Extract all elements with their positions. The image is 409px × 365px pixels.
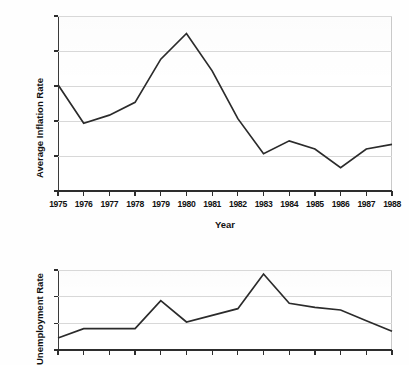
inflation-x-axis-title: Year [215,219,235,230]
y-tick-mark [54,323,58,325]
unemployment-plot-area [58,270,392,350]
gridline [58,121,392,122]
x-tick-mark [391,350,392,355]
x-tick-mark [109,191,110,196]
unemployment-y-axis-title: Unemployment Rate [34,273,45,365]
x-tick-mark [237,350,238,355]
x-tick-mark [134,350,135,355]
x-tick-label: 1982 [229,199,247,209]
x-tick-mark [83,350,84,355]
x-tick-mark [57,191,58,196]
x-tick-mark [186,350,187,355]
y-tick-mark [54,85,58,87]
x-tick-label: 1978 [126,199,144,209]
x-tick-label: 1977 [101,199,119,209]
x-tick-label: 1979 [152,199,170,209]
x-tick-label: 1984 [280,199,298,209]
x-tick-mark [212,191,213,196]
x-tick-mark [391,191,392,196]
x-tick-mark [314,350,315,355]
gridline [58,51,392,52]
x-tick-mark [186,191,187,196]
x-tick-mark [57,350,58,355]
y-tick-mark [54,120,58,122]
x-tick-mark [366,350,367,355]
inflation-y-axis-title: Average Inflation Rate [34,78,45,178]
y-tick-mark [54,155,58,157]
x-tick-mark [263,350,264,355]
y-tick-mark [54,269,58,271]
x-tick-label: 1975 [49,199,67,209]
x-tick-mark [314,191,315,196]
x-tick-mark [83,191,84,196]
x-tick-label: 1985 [306,199,324,209]
y-tick-mark [54,296,58,298]
x-tick-label: 1987 [357,199,375,209]
x-tick-mark [134,191,135,196]
x-tick-label: 1988 [383,199,401,209]
x-tick-mark [212,350,213,355]
x-tick-mark [109,350,110,355]
gridline [58,156,392,157]
x-tick-mark [237,191,238,196]
x-tick-mark [289,191,290,196]
gridline [58,296,392,297]
x-tick-label: 1980 [178,199,196,209]
y-tick-mark [54,15,58,17]
x-tick-mark [340,350,341,355]
y-tick-mark [54,50,58,52]
x-tick-mark [263,191,264,196]
x-tick-label: 1986 [332,199,350,209]
gridline [58,270,392,271]
x-tick-label: 1981 [203,199,221,209]
x-tick-label: 1983 [255,199,273,209]
x-tick-mark [366,191,367,196]
x-tick-mark [289,350,290,355]
figure-page: 03691215 1975197619771978197919801981198… [0,0,409,365]
inflation-plot-area [58,16,392,191]
gridline [58,323,392,324]
gridline [58,86,392,87]
x-tick-mark [340,191,341,196]
x-tick-mark [160,191,161,196]
x-tick-label: 1976 [75,199,93,209]
x-tick-mark [160,350,161,355]
gridline [58,16,392,17]
